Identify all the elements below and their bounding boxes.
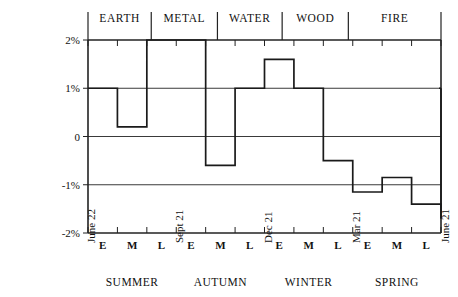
chart-container: 2%1%0-1%-2%EARTHMETALWATERWOODFIREEMLEML… [0, 0, 458, 297]
y-axis-label-2: 0 [75, 131, 81, 143]
phase-label-0: E [99, 239, 106, 251]
y-axis-label-0: 2% [65, 34, 80, 46]
season-label-winter: WINTER [285, 276, 333, 288]
element-label-earth: EARTH [99, 12, 140, 24]
element-label-metal: METAL [163, 12, 205, 24]
y-axis-label-1: 1% [65, 82, 80, 94]
phase-label-10: M [392, 239, 403, 251]
boundary-date-0: June 22 [85, 209, 97, 243]
y-axis-label-4: -2% [62, 227, 80, 239]
step-series-line [88, 40, 441, 219]
phase-label-9: E [364, 239, 371, 251]
phase-label-8: L [334, 239, 341, 251]
phase-label-7: M [303, 239, 314, 251]
season-label-autumn: AUTUMN [194, 276, 248, 288]
phase-label-6: E [276, 239, 283, 251]
phase-label-2: L [158, 239, 165, 251]
phase-label-1: M [127, 239, 138, 251]
phase-label-5: L [246, 239, 253, 251]
five-element-seasonal-step-chart: 2%1%0-1%-2%EARTHMETALWATERWOODFIREEMLEML… [0, 0, 458, 297]
y-axis-label-3: -1% [62, 179, 80, 191]
phase-label-3: E [187, 239, 194, 251]
phase-label-11: L [423, 239, 430, 251]
boundary-date-4: June 21 [439, 209, 451, 243]
season-label-spring: SPRING [375, 276, 419, 288]
season-label-summer: SUMMER [106, 276, 159, 288]
element-label-water: WATER [229, 12, 270, 24]
boundary-date-1: Sept 21 [173, 210, 185, 243]
phase-label-4: M [215, 239, 226, 251]
boundary-date-3: Mar 21 [350, 211, 362, 243]
element-label-fire: FIRE [381, 12, 408, 24]
element-label-wood: WOOD [296, 12, 334, 24]
boundary-date-2: Dec 21 [262, 212, 274, 243]
